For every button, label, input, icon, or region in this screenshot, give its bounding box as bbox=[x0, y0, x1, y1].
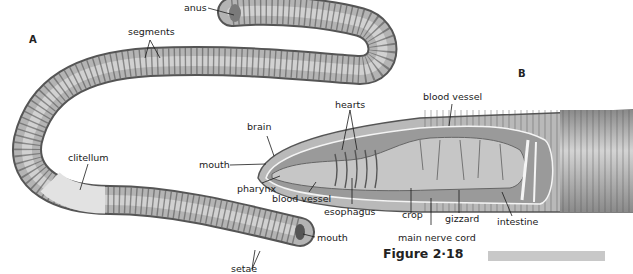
label-mouth-b: mouth bbox=[199, 160, 230, 170]
worm-a-head bbox=[295, 224, 305, 240]
label-esophagus: esophagus bbox=[324, 207, 375, 217]
worm-a-tail bbox=[229, 4, 241, 22]
panel-b-letter: B bbox=[518, 69, 526, 79]
label-pharynx: pharynx bbox=[237, 184, 276, 194]
label-anus: anus bbox=[184, 3, 207, 13]
label-gizzard: gizzard bbox=[445, 214, 479, 224]
label-clitellum: clitellum bbox=[68, 153, 109, 163]
label-hearts: hearts bbox=[335, 100, 365, 110]
figure-caption: Figure 2·18 bbox=[383, 248, 464, 261]
label-segments: segments bbox=[128, 27, 175, 37]
label-intestine: intestine bbox=[497, 217, 538, 227]
label-blood-vessel-top: blood vessel bbox=[423, 92, 482, 102]
label-mouth-a: mouth bbox=[317, 233, 348, 243]
panel-a-letter: A bbox=[29, 35, 37, 45]
label-main-nerve-cord: main nerve cord bbox=[398, 233, 476, 243]
label-crop: crop bbox=[402, 210, 423, 220]
earthworm-figure: A B anus segments clitellum mouth setae … bbox=[0, 0, 633, 274]
label-blood-vessel-bottom: blood vessel bbox=[272, 194, 331, 204]
label-brain: brain bbox=[247, 122, 271, 132]
caption-bar bbox=[488, 251, 605, 261]
label-setae: setae bbox=[231, 264, 257, 274]
